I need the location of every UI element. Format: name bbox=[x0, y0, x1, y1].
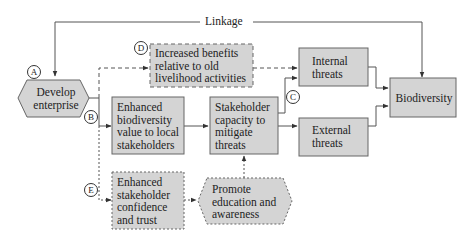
marker-b: B bbox=[84, 110, 98, 124]
linkage-label: Linkage bbox=[203, 15, 245, 28]
marker-e: E bbox=[84, 183, 98, 197]
marker-a: A bbox=[27, 65, 41, 79]
internal-threats-label: Internal threats bbox=[312, 55, 357, 80]
increased-benefits-label: Increased benefits relative to old livel… bbox=[155, 47, 253, 85]
biodiversity-label: Biodiversity bbox=[394, 92, 454, 105]
enhanced-biodiversity-label: Enhanced biodiversity value to local sta… bbox=[117, 101, 183, 151]
enhanced-confidence-label: Enhanced stakeholder confidence and trus… bbox=[117, 176, 183, 226]
stakeholder-capacity-label: Stakeholder capacity to mitigate threats bbox=[215, 101, 277, 151]
promote-education-label: Promote education and awareness bbox=[212, 183, 288, 221]
marker-d: D bbox=[134, 41, 148, 55]
marker-c: C bbox=[286, 90, 300, 104]
external-threats-label: External threats bbox=[312, 124, 357, 149]
develop-enterprise-label: Develop enterprise bbox=[28, 86, 84, 111]
